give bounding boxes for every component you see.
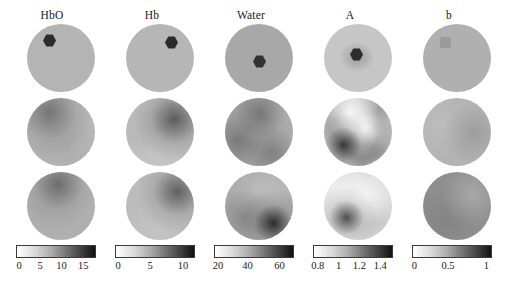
colorbar-gradient	[214, 245, 294, 258]
colorbar-gradient	[115, 245, 195, 258]
panel-a-row2	[324, 98, 392, 166]
disc-image	[324, 24, 392, 92]
panel-hbo-row2	[27, 98, 95, 166]
colorbar-ticks: 20 40 60	[214, 260, 294, 276]
colorbar-tick: 1.4	[374, 260, 387, 271]
disc-image	[324, 98, 392, 166]
colorbar-tick: 10	[56, 260, 67, 271]
panel-hbo-row3	[27, 172, 95, 240]
colorbar-tick: 15	[78, 260, 89, 271]
disc-background	[423, 98, 491, 166]
column-header-water: Water	[203, 9, 299, 21]
colorbar-group-water: 20 40 60	[206, 245, 302, 276]
panel-water-row3	[225, 172, 293, 240]
disc-image	[27, 172, 95, 240]
inclusion-square	[440, 37, 451, 48]
disc-background	[126, 98, 194, 166]
colorbar-tick: 5	[37, 260, 42, 271]
disc-image	[126, 24, 194, 92]
disc-image	[423, 98, 491, 166]
speckled-boundary-ring	[324, 98, 392, 166]
disc-image	[324, 172, 392, 240]
disc-image	[27, 24, 95, 92]
disc-background	[27, 24, 95, 92]
colorbar-tick: 10	[178, 260, 189, 271]
disc-image	[225, 24, 293, 92]
speckled-boundary-ring	[324, 172, 392, 240]
colorbar-tick: 0	[17, 260, 22, 271]
disc-image	[423, 24, 491, 92]
disc-background	[225, 172, 293, 240]
disc-background	[225, 98, 293, 166]
disc-image	[27, 98, 95, 166]
disc-background	[126, 172, 194, 240]
colorbar-ticks: 0 0.5 1	[412, 260, 492, 276]
disc-background	[423, 24, 491, 92]
colorbar-group-a: 0.8 1 1.2 1.4	[305, 245, 401, 276]
panel-water-row2	[225, 98, 293, 166]
panel-water-row1	[225, 24, 293, 92]
colorbar-tick: 0.8	[311, 260, 324, 271]
disc-background	[423, 172, 491, 240]
column-header-hbo: HbO	[4, 9, 100, 21]
panel-hb-row3	[126, 172, 194, 240]
column-header-hb: Hb	[104, 9, 200, 21]
disc-image	[126, 98, 194, 166]
disc-image	[225, 98, 293, 166]
reconstruction-figure: HbO Hb Water A b	[0, 0, 505, 285]
colorbar-tick: 40	[242, 260, 253, 271]
colorbar-tick: 20	[213, 260, 224, 271]
colorbar-tick: 60	[274, 260, 285, 271]
panel-b-row2	[423, 98, 491, 166]
disc-image	[126, 172, 194, 240]
panel-b-row1	[423, 24, 491, 92]
colorbar-group-hbo: 0 5 10 15	[8, 245, 104, 276]
colorbar-gradient	[313, 245, 393, 258]
colorbar-tick: 0.5	[441, 260, 454, 271]
colorbar-group-hb: 0 5 10	[107, 245, 203, 276]
panel-hb-row2	[126, 98, 194, 166]
panel-hb-row1	[126, 24, 194, 92]
colorbar-ticks: 0 5 10 15	[16, 260, 96, 276]
column-header-a: A	[302, 9, 398, 21]
colorbar-tick: 0	[116, 260, 121, 271]
disc-background	[126, 24, 194, 92]
panel-a-row1	[324, 24, 392, 92]
panel-b-row3	[423, 172, 491, 240]
colorbar-gradient	[16, 245, 96, 258]
colorbar-tick: 1	[336, 260, 341, 271]
colorbar-tick: 0	[412, 260, 417, 271]
colorbar-tick: 1	[484, 260, 489, 271]
colorbar-gradient	[412, 245, 492, 258]
panel-a-row3	[324, 172, 392, 240]
colorbar-tick: 5	[148, 260, 153, 271]
colorbar-group-b: 0 0.5 1	[404, 245, 500, 276]
column-header-b: b	[401, 9, 497, 21]
disc-background	[27, 98, 95, 166]
colorbar-ticks: 0.8 1 1.2 1.4	[313, 260, 393, 276]
disc-image	[225, 172, 293, 240]
colorbar-ticks: 0 5 10	[115, 260, 195, 276]
colorbar-tick: 1.2	[353, 260, 366, 271]
disc-background	[27, 172, 95, 240]
disc-image	[423, 172, 491, 240]
panel-hbo-row1	[27, 24, 95, 92]
